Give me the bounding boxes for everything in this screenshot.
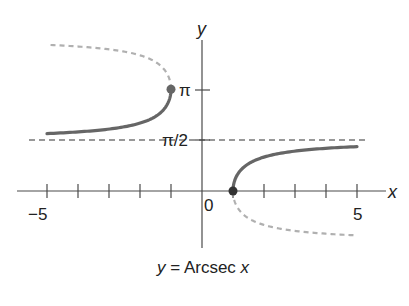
caption-func: Arcsec xyxy=(184,258,236,277)
dashed-curve-upper-left xyxy=(47,45,171,89)
x-axis-label: x xyxy=(387,182,398,202)
y-tick-label-pi-over-2: π/2 xyxy=(162,131,188,150)
y-tick-label-pi: π xyxy=(179,81,191,100)
x-tick-label-neg5: −5 xyxy=(28,205,47,224)
caption-y: y xyxy=(156,258,167,277)
caption-equals: = xyxy=(170,258,180,277)
solid-curve-left-branch xyxy=(47,89,171,133)
closed-point-neg1-pi xyxy=(167,85,176,94)
y-axis-label: y xyxy=(195,19,207,39)
arcsec-graph: y x π π/2 0 −5 5 y = Arcsec x xyxy=(0,0,409,306)
closed-point-1-0 xyxy=(229,187,238,196)
chart-caption: y = Arcsec x xyxy=(156,258,250,277)
x-tick-label-5: 5 xyxy=(353,205,362,224)
caption-x: x xyxy=(240,258,250,277)
x-tick-label-zero: 0 xyxy=(204,196,213,215)
